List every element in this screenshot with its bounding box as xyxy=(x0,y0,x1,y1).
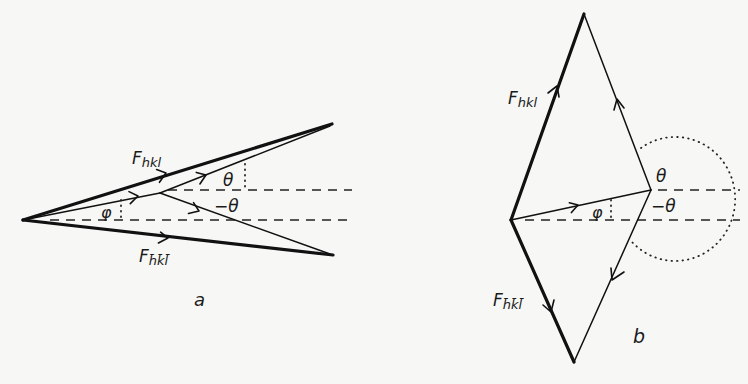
panel-b-phi-vector xyxy=(511,190,651,220)
panel-b-f-bar-vector xyxy=(511,220,574,362)
panel-a-arrowhead-icon xyxy=(128,190,139,203)
panel-b-f-bar-label: Fh̄k̄l̄ xyxy=(493,290,524,312)
panel-b-theta-vector xyxy=(584,14,651,190)
panel-b-f-hkl-vector xyxy=(511,14,584,220)
panel-b-phi-label: φ xyxy=(592,203,603,222)
panel-a-f-hkl-label: Fhkl xyxy=(132,148,162,170)
panel-a-f-hkl-vector xyxy=(23,124,332,220)
panel-a-phi-label: φ xyxy=(101,203,112,222)
panel-a: Fhkl Fh̄k̄l̄ θ −θ φ a xyxy=(23,124,352,310)
panel-a-f-bar-vector xyxy=(23,220,333,255)
panel-b-caption: b xyxy=(633,325,645,347)
panel-a-f-bar-label: Fh̄k̄l̄ xyxy=(139,246,170,268)
panel-a-theta-vector xyxy=(160,126,330,193)
panel-b-neg-theta-label: −θ xyxy=(651,196,676,216)
panel-a-neg-theta-label: −θ xyxy=(214,196,239,216)
panel-a-theta-label: θ xyxy=(223,170,234,190)
panel-a-caption: a xyxy=(194,289,205,310)
panel-b: Fhkl Fh̄k̄l̄ θ −θ φ b xyxy=(493,14,740,362)
panel-b-f-hkl-label: Fhkl xyxy=(508,88,538,110)
panel-b-theta-label: θ xyxy=(656,166,667,186)
vector-diagram: Fhkl Fh̄k̄l̄ θ −θ φ a Fhkl Fh̄k̄l̄ θ −θ xyxy=(0,0,748,384)
